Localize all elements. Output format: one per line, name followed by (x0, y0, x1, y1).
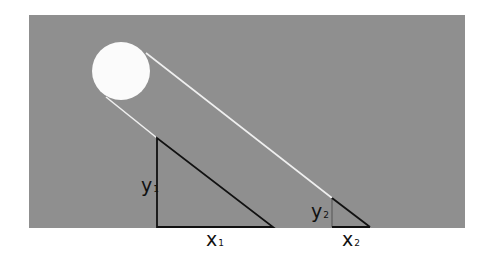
label-x1-main: x (206, 228, 217, 250)
gray-panel (29, 15, 465, 228)
label-y1: y1 (141, 176, 159, 195)
label-y2-sub: 2 (323, 210, 329, 220)
similar-triangles-diagram: y1 x1 y2 x2 (0, 0, 491, 262)
label-x1-sub: 1 (218, 238, 224, 248)
label-x2-main: x (342, 228, 353, 250)
label-x1: x1 (206, 230, 224, 249)
diagram-canvas (0, 0, 491, 262)
label-y1-main: y (141, 174, 152, 196)
label-y2-main: y (311, 200, 322, 222)
sun-circle (92, 42, 150, 100)
label-x2: x2 (342, 230, 360, 249)
label-y1-sub: 1 (153, 184, 159, 194)
label-x2-sub: 2 (354, 238, 360, 248)
label-y2: y2 (311, 202, 329, 221)
